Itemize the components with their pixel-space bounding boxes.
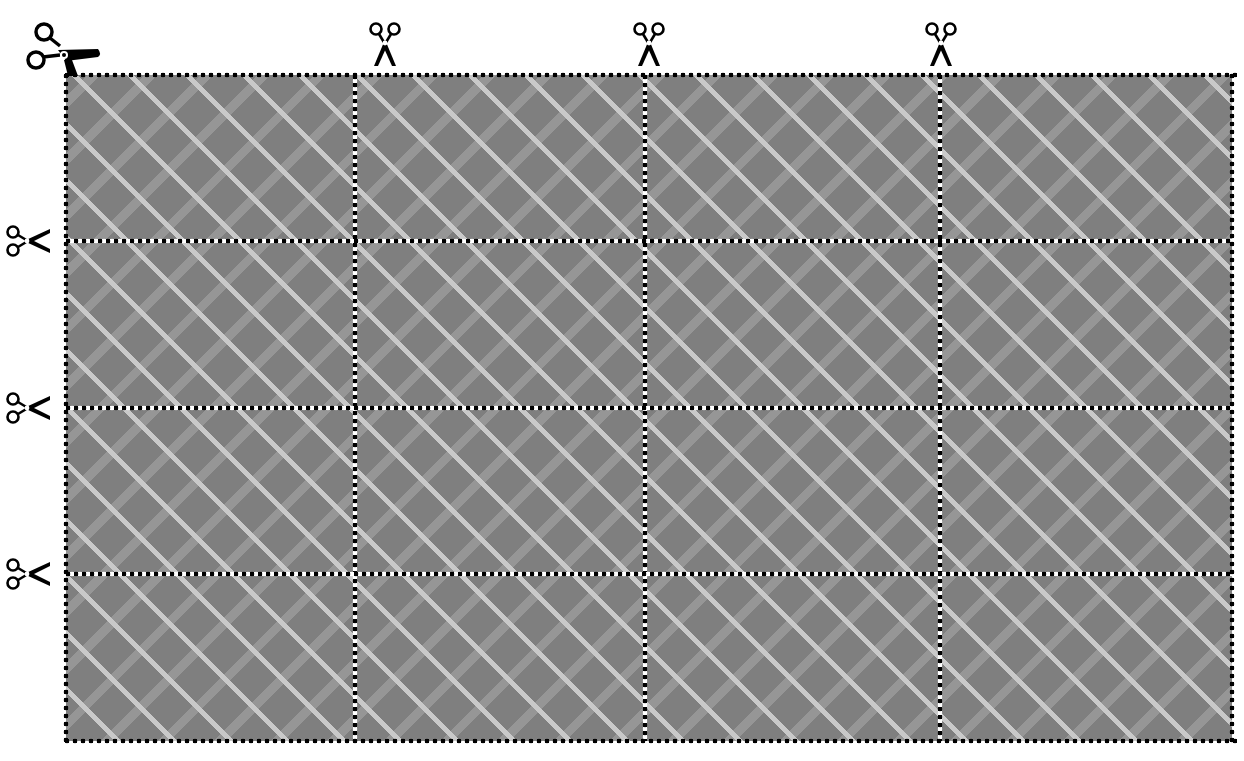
scissors-icon — [632, 22, 666, 68]
scissors-icon — [368, 22, 402, 68]
scissors-icon — [6, 557, 52, 591]
grid-cell-r3-c1[interactable] — [66, 408, 355, 574]
grid-cell-r1-c2[interactable] — [355, 75, 645, 241]
border-top — [63, 72, 1237, 78]
border-bottom — [63, 738, 1237, 744]
grid-cell-r2-c3[interactable] — [645, 241, 940, 408]
border-right — [1229, 72, 1235, 744]
grid-cell-r1-c3[interactable] — [645, 75, 940, 241]
grid-cell-r4-c4[interactable] — [940, 574, 1232, 741]
scissors-icon — [26, 20, 104, 80]
grid-cell-r1-c4[interactable] — [940, 75, 1232, 241]
scissors-icon — [6, 391, 52, 425]
grid-cell-r2-c2[interactable] — [355, 241, 645, 408]
border-left — [63, 72, 69, 744]
grid-cell-r4-c3[interactable] — [645, 574, 940, 741]
cut-line-horizontal-3 — [66, 571, 1232, 577]
grid-cell-r3-c3[interactable] — [645, 408, 940, 574]
cut-line-horizontal-1 — [66, 238, 1232, 244]
grid-cell-r4-c2[interactable] — [355, 574, 645, 741]
scissors-icon — [6, 224, 52, 258]
grid-cell-r3-c4[interactable] — [940, 408, 1232, 574]
grid-cell-r3-c2[interactable] — [355, 408, 645, 574]
cut-line-horizontal-2 — [66, 405, 1232, 411]
scissors-icon — [924, 22, 958, 68]
grid-cell-r2-c1[interactable] — [66, 241, 355, 408]
grid-cell-r1-c1[interactable] — [66, 75, 355, 241]
grid-cell-r2-c4[interactable] — [940, 241, 1232, 408]
grid-cell-r4-c1[interactable] — [66, 574, 355, 741]
